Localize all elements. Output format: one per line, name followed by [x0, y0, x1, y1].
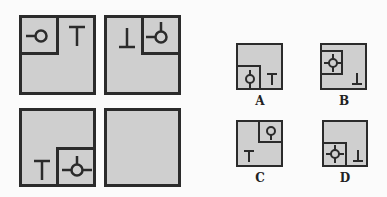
option-d-label: D — [320, 171, 370, 185]
grid-panel-bottom-left — [19, 108, 96, 187]
inverted-t-symbol — [352, 149, 364, 163]
option-c-label: C — [235, 171, 285, 185]
inverted-t-symbol — [351, 72, 363, 86]
circle-left-top-stems-symbol — [146, 20, 176, 50]
t-symbol — [243, 149, 255, 163]
option-a-label: A — [235, 94, 285, 108]
circle-four-stems-symbol — [323, 53, 343, 73]
circle-left-stem-symbol — [26, 26, 56, 46]
circle-bottom-stem-symbol — [264, 125, 278, 141]
grid-panel-top-right — [104, 15, 181, 95]
option-c[interactable] — [236, 120, 283, 167]
grid-panel-missing — [104, 108, 181, 187]
option-b[interactable] — [320, 43, 367, 90]
circle-three-stems-symbol — [60, 153, 94, 183]
t-symbol — [67, 24, 87, 48]
option-a[interactable] — [236, 43, 283, 90]
grid-panel-top-left — [19, 15, 96, 95]
option-b-label: B — [319, 94, 369, 108]
inverted-t-symbol — [117, 26, 137, 50]
circle-four-stems-symbol — [325, 144, 345, 164]
t-symbol — [266, 72, 278, 86]
option-d[interactable] — [322, 120, 368, 167]
circle-top-bottom-stems-symbol — [242, 69, 258, 89]
t-symbol — [32, 158, 52, 182]
